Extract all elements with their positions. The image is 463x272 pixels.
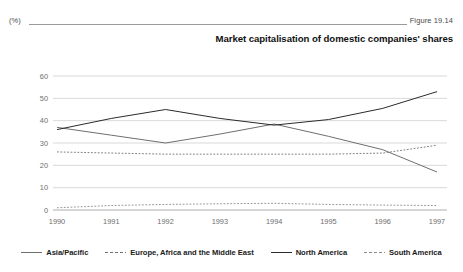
gridlines-group: [53, 76, 447, 210]
page-title: Market capitalisation of domestic compan…: [215, 33, 453, 44]
legend-label: North America: [296, 248, 347, 257]
header-divider-rule: [29, 24, 419, 25]
chart-legend: Asia/PacificEurope, Africa and the Middl…: [0, 243, 463, 261]
x-axis-tick-label: 1992: [157, 217, 173, 226]
y-axis-tick-label: 0: [44, 206, 48, 215]
legend-swatch-dashed-line-icon: [364, 252, 385, 253]
y-axis-tick-label: 50: [40, 94, 48, 103]
figure-number-label: Figure 19.14: [407, 16, 453, 25]
legend-item[interactable]: Europe, Africa and the Middle East: [105, 248, 253, 257]
x-axis-tick-label: 1993: [212, 217, 228, 226]
series-line-asia-pacific: [57, 124, 437, 172]
legend-swatch-dashed-line-icon: [105, 252, 126, 253]
chart-plot-area: 0102030405060 19901991199219931994199519…: [0, 60, 463, 235]
y-axis-tick-label: 20: [40, 161, 48, 170]
legend-swatch-solid-line-icon: [271, 252, 292, 253]
figure-header: (%) Figure 19.14 Market capitalisation o…: [0, 0, 463, 52]
legend-label: Europe, Africa and the Middle East: [130, 248, 253, 257]
x-axis-tick-labels: 19901991199219931994199519961997: [49, 217, 445, 226]
series-line-north-america: [57, 92, 437, 130]
y-axis-tick-label: 60: [40, 72, 48, 81]
x-axis-tick-label: 1996: [374, 217, 390, 226]
legend-item[interactable]: North America: [271, 248, 347, 257]
data-series-group: [57, 92, 437, 208]
series-line-europe-africa-and-the-middle-east: [57, 145, 437, 154]
x-axis-tick-label: 1990: [49, 217, 65, 226]
y-axis-unit-label: (%): [9, 16, 21, 25]
figure-container: (%) Figure 19.14 Market capitalisation o…: [0, 0, 463, 272]
y-axis-tick-label: 40: [40, 116, 48, 125]
y-axis-tick-labels: 0102030405060: [40, 72, 48, 215]
x-axis-tick-label: 1991: [103, 217, 119, 226]
line-chart-svg: 0102030405060 19901991199219931994199519…: [0, 60, 463, 235]
legend-item[interactable]: Asia/Pacific: [21, 248, 88, 257]
x-axis-tick-label: 1997: [429, 217, 445, 226]
y-axis-tick-label: 10: [40, 183, 48, 192]
legend-item[interactable]: South America: [364, 248, 442, 257]
legend-label: South America: [389, 248, 442, 257]
series-line-south-america: [57, 203, 437, 207]
x-axis-tick-label: 1995: [320, 217, 336, 226]
x-axis-tick-label: 1994: [266, 217, 282, 226]
legend-label: Asia/Pacific: [46, 248, 88, 257]
y-axis-tick-label: 30: [40, 139, 48, 148]
legend-swatch-solid-line-icon: [21, 252, 42, 253]
